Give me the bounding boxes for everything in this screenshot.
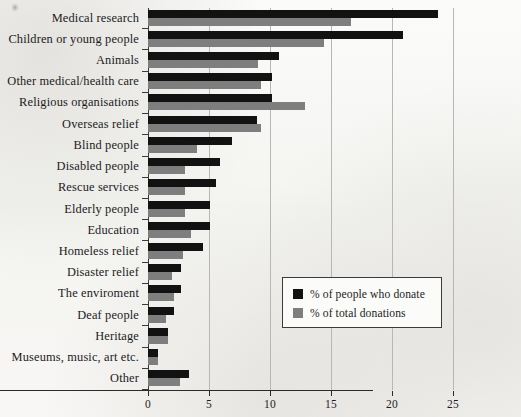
x-tick-10 bbox=[270, 391, 271, 396]
x-tick-5 bbox=[209, 391, 210, 396]
category-label: Medical research bbox=[52, 11, 139, 26]
bar-row: Blind people bbox=[148, 135, 453, 156]
bar-row: Disabled people bbox=[148, 157, 453, 178]
legend-label-total-donations: % of total donations bbox=[310, 307, 406, 320]
x-tick-label-15: 15 bbox=[316, 398, 346, 410]
horizontal-bar-chart: Medical researchChildren or young people… bbox=[0, 0, 521, 417]
category-label: Blind people bbox=[74, 138, 139, 153]
category-label: Rescue services bbox=[58, 180, 139, 195]
bar-total-donations bbox=[148, 357, 158, 365]
bar-row: Religious organisations bbox=[148, 93, 453, 114]
bar-people-donate bbox=[148, 158, 220, 166]
category-label: Children or young people bbox=[8, 32, 139, 47]
bar-row: Homeless relief bbox=[148, 241, 453, 262]
x-tick-20 bbox=[392, 391, 393, 396]
bar-total-donations bbox=[148, 18, 351, 26]
bar-row: Heritage bbox=[148, 326, 453, 347]
x-tick-label-20: 20 bbox=[377, 398, 407, 410]
bar-people-donate bbox=[148, 52, 279, 60]
category-label: Disaster relief bbox=[67, 265, 139, 280]
bar-people-donate bbox=[148, 179, 216, 187]
bar-total-donations bbox=[148, 145, 197, 153]
category-label: Animals bbox=[96, 53, 139, 68]
bar-row: Medical research bbox=[148, 8, 453, 29]
bar-people-donate bbox=[148, 31, 403, 39]
category-label: Education bbox=[87, 223, 139, 238]
bar-total-donations bbox=[148, 315, 166, 323]
bar-people-donate bbox=[148, 73, 272, 81]
bar-total-donations bbox=[148, 336, 168, 344]
x-tick-label-10: 10 bbox=[255, 398, 285, 410]
category-label: The enviroment bbox=[58, 286, 139, 301]
bar-total-donations bbox=[148, 39, 324, 47]
bar-people-donate bbox=[148, 370, 189, 378]
bar-total-donations bbox=[148, 60, 258, 68]
bar-row: Elderly people bbox=[148, 199, 453, 220]
bar-row: Other medical/health care bbox=[148, 72, 453, 93]
bar-total-donations bbox=[148, 272, 172, 280]
category-label: Religious organisations bbox=[19, 95, 139, 110]
category-label: Heritage bbox=[95, 329, 139, 344]
category-label: Elderly people bbox=[64, 202, 139, 217]
category-label: Museums, music, art etc. bbox=[12, 350, 139, 365]
x-tick-25 bbox=[453, 391, 454, 396]
bar-row: Other bbox=[148, 369, 453, 390]
bar-people-donate bbox=[148, 328, 168, 336]
category-label: Other bbox=[110, 371, 139, 386]
plot-area: Medical researchChildren or young people… bbox=[148, 8, 453, 390]
bar-total-donations bbox=[148, 378, 180, 386]
x-tick-label-25: 25 bbox=[438, 398, 468, 410]
bar-total-donations bbox=[148, 251, 183, 259]
bar-people-donate bbox=[148, 116, 257, 124]
bar-total-donations bbox=[148, 293, 174, 301]
bar-people-donate bbox=[148, 349, 158, 357]
bar-total-donations bbox=[148, 230, 191, 238]
legend-swatch-dark bbox=[293, 289, 303, 299]
chart-page: Medical researchChildren or young people… bbox=[0, 0, 521, 417]
category-label: Homeless relief bbox=[59, 244, 139, 259]
x-axis-line bbox=[0, 390, 373, 391]
bar-people-donate bbox=[148, 94, 272, 102]
legend-label-people-donate: % of people who donate bbox=[310, 288, 425, 301]
category-label: Other medical/health care bbox=[7, 74, 139, 89]
gridline-25 bbox=[453, 8, 454, 390]
bar-total-donations bbox=[148, 124, 261, 132]
x-tick-label-0: 0 bbox=[133, 398, 163, 410]
bar-total-donations bbox=[148, 209, 185, 217]
legend-entry-people-donate: % of people who donate bbox=[293, 287, 425, 301]
bar-row: Children or young people bbox=[148, 29, 453, 50]
category-label: Overseas relief bbox=[62, 117, 139, 132]
bar-row: Overseas relief bbox=[148, 114, 453, 135]
bar-people-donate bbox=[148, 10, 438, 18]
bar-people-donate bbox=[148, 285, 181, 293]
bar-row: Rescue services bbox=[148, 178, 453, 199]
bar-row: Animals bbox=[148, 50, 453, 71]
bar-row: Museums, music, art etc. bbox=[148, 348, 453, 369]
bar-people-donate bbox=[148, 222, 210, 230]
bar-people-donate bbox=[148, 264, 181, 272]
bar-people-donate bbox=[148, 201, 210, 209]
bar-row: Education bbox=[148, 220, 453, 241]
x-tick-0 bbox=[148, 391, 149, 396]
chart-legend: % of people who donate % of total donati… bbox=[282, 277, 442, 328]
x-tick-15 bbox=[331, 391, 332, 396]
bar-people-donate bbox=[148, 137, 232, 145]
legend-swatch-light bbox=[293, 308, 303, 318]
x-tick-label-5: 5 bbox=[194, 398, 224, 410]
bar-people-donate bbox=[148, 243, 203, 251]
bar-total-donations bbox=[148, 102, 305, 110]
bar-total-donations bbox=[148, 81, 261, 89]
bar-total-donations bbox=[148, 187, 185, 195]
category-label: Deaf people bbox=[77, 308, 139, 323]
category-label: Disabled people bbox=[57, 159, 139, 174]
bar-people-donate bbox=[148, 307, 174, 315]
category-tick bbox=[142, 389, 148, 390]
bar-total-donations bbox=[148, 166, 185, 174]
legend-entry-total-donations: % of total donations bbox=[293, 306, 406, 320]
